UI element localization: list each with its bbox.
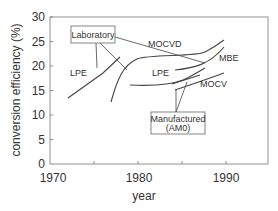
y-tick-label: 5 (38, 133, 45, 147)
x-tick-label: 1970 (40, 171, 67, 185)
label-lpe-mfg: LPE (152, 68, 169, 78)
curve-mbe (175, 47, 224, 70)
leader-mfg-mocv (176, 82, 187, 112)
x-axis: 1970 1980 1990 (40, 161, 240, 185)
x-tick-label: 1980 (126, 171, 153, 185)
y-tick-label: 0 (38, 157, 45, 171)
label-mocv: MOCV (200, 79, 227, 89)
y-tick-label: 25 (32, 35, 46, 49)
manufactured-label-line1: Manufactured (150, 114, 205, 124)
y-axis-title: conversion efficiency (%) (9, 23, 23, 156)
x-tick-label: 1990 (213, 171, 240, 185)
y-tick-label: 20 (32, 59, 46, 73)
y-tick-label: 10 (32, 108, 46, 122)
manufactured-label-line2: (AM0) (166, 123, 191, 133)
curves (68, 40, 224, 102)
label-mocvd: MOCVD (148, 39, 182, 49)
x-axis-title: year (132, 189, 155, 203)
label-lpe-lab: LPE (70, 68, 87, 78)
leader-lab-lpe (96, 43, 97, 68)
laboratory-label: Laboratory (71, 30, 115, 40)
label-mbe: MBE (219, 53, 239, 63)
chart-canvas: 30 25 20 15 10 5 0 1970 1980 1990 year c… (0, 0, 278, 211)
leader-lab-mocvd (100, 43, 127, 70)
y-tick-label: 15 (32, 84, 46, 98)
y-tick-label: 30 (32, 10, 46, 24)
